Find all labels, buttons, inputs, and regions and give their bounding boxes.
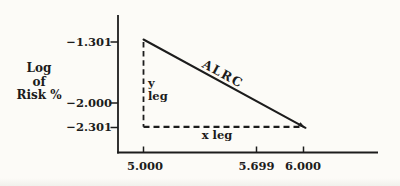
y-tick-label-neg2301: −2.301: [38, 121, 112, 134]
x-tick-label-6000: 6.000: [278, 160, 328, 173]
alrc-line: [144, 40, 306, 128]
x-tick-label-5000: 5.000: [120, 160, 170, 173]
y-tick-label-neg1301: −1.301: [38, 36, 112, 49]
semilog-risk-chart: Log of Risk % −1.301 −2.000 −2.301 5.000…: [0, 0, 400, 186]
y-axis-title-line2: of: [8, 76, 70, 90]
y-leg-label-line1: y: [148, 77, 168, 90]
y-leg-label-line2: leg: [148, 90, 168, 103]
y-tick-label-neg2000: −2.000: [38, 97, 112, 110]
y-axis-title-line1: Log: [8, 62, 70, 76]
x-leg-label: x leg: [191, 129, 243, 142]
y-leg-label: y leg: [148, 77, 168, 103]
x-tick-label-5699: 5.699: [232, 160, 282, 173]
